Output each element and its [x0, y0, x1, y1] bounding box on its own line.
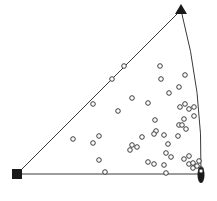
data-point [164, 151, 169, 156]
data-point [97, 134, 102, 139]
data-point [140, 135, 145, 140]
corner-markers [12, 4, 205, 183]
data-point [146, 160, 151, 165]
data-point [182, 117, 187, 122]
data-points [71, 64, 204, 176]
data-point [180, 123, 185, 128]
data-point [164, 171, 169, 176]
data-point [158, 64, 163, 69]
data-point [162, 133, 167, 138]
data-point [128, 148, 133, 153]
data-point [192, 105, 197, 110]
edge-arc [181, 10, 201, 175]
edge-left [17, 10, 181, 174]
data-point [103, 170, 108, 175]
data-point [91, 102, 96, 107]
data-point [176, 134, 181, 139]
data-point [178, 105, 183, 110]
data-point [162, 163, 167, 168]
data-point [187, 107, 192, 112]
data-point [159, 77, 164, 82]
data-point [135, 145, 140, 150]
data-point [116, 109, 121, 114]
data-point [183, 73, 188, 78]
triangle-outline [17, 10, 201, 175]
data-point [169, 155, 174, 160]
data-point [166, 142, 171, 147]
data-point [187, 154, 192, 159]
data-point [130, 96, 135, 101]
data-point [197, 159, 202, 164]
data-point [146, 101, 151, 106]
data-point [177, 85, 182, 90]
data-point [152, 162, 157, 167]
data-point [192, 114, 197, 119]
data-point [167, 91, 172, 96]
data-point [110, 77, 115, 82]
data-point [153, 118, 158, 123]
data-point [195, 164, 200, 169]
triangle-marker-icon [175, 4, 187, 14]
data-point [91, 141, 96, 146]
data-point [184, 127, 189, 132]
data-point [152, 132, 157, 137]
data-point [130, 143, 135, 148]
data-point [97, 158, 102, 163]
data-point [71, 137, 76, 142]
data-point [191, 161, 196, 166]
diagram-canvas [0, 0, 217, 201]
data-point [122, 64, 127, 69]
data-point [183, 102, 188, 107]
data-point [182, 157, 187, 162]
stereographic-triangle-diagram [0, 0, 217, 201]
square-marker-icon [12, 169, 22, 179]
data-point [199, 169, 203, 173]
